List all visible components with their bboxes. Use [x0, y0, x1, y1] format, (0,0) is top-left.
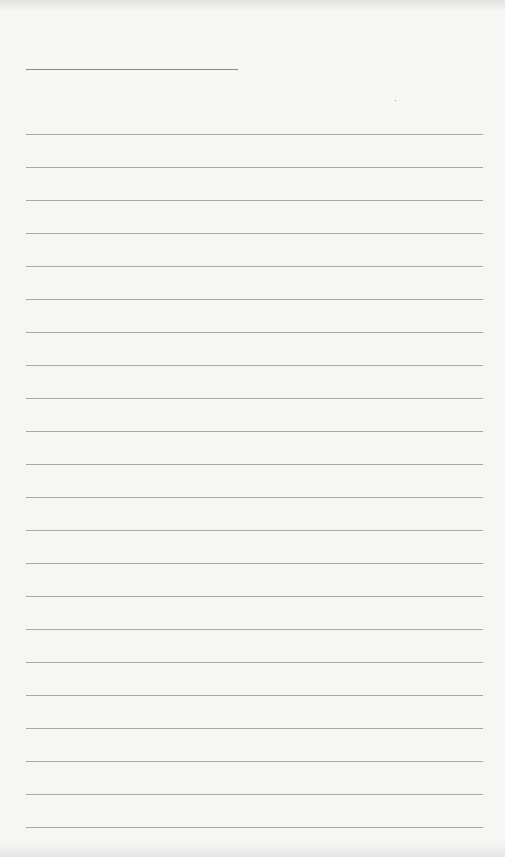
- ruled-line: [26, 530, 483, 531]
- ruled-line: [26, 134, 483, 135]
- ruled-line: [26, 563, 483, 564]
- ruled-line: [26, 431, 483, 432]
- ruled-line: [26, 497, 483, 498]
- ruled-line: [26, 629, 483, 630]
- ruled-line: [26, 761, 483, 762]
- ruled-line: [26, 332, 483, 333]
- ruled-line: [26, 266, 483, 267]
- ruled-line: [26, 365, 483, 366]
- ruled-line: [26, 464, 483, 465]
- ruled-line: [26, 827, 483, 828]
- title-rule: [26, 69, 238, 70]
- ruled-line: [26, 398, 483, 399]
- ruled-line: [26, 695, 483, 696]
- ruled-line: [26, 167, 483, 168]
- ruled-line: [26, 728, 483, 729]
- ruled-line: [26, 200, 483, 201]
- ruled-line: [26, 299, 483, 300]
- ruled-line: [26, 662, 483, 663]
- ruled-line: [26, 596, 483, 597]
- bottom-shadow-band: [0, 843, 505, 857]
- ruled-line: [26, 233, 483, 234]
- ruled-line: [26, 794, 483, 795]
- speck: [395, 100, 396, 101]
- lined-paper-page: [0, 0, 505, 857]
